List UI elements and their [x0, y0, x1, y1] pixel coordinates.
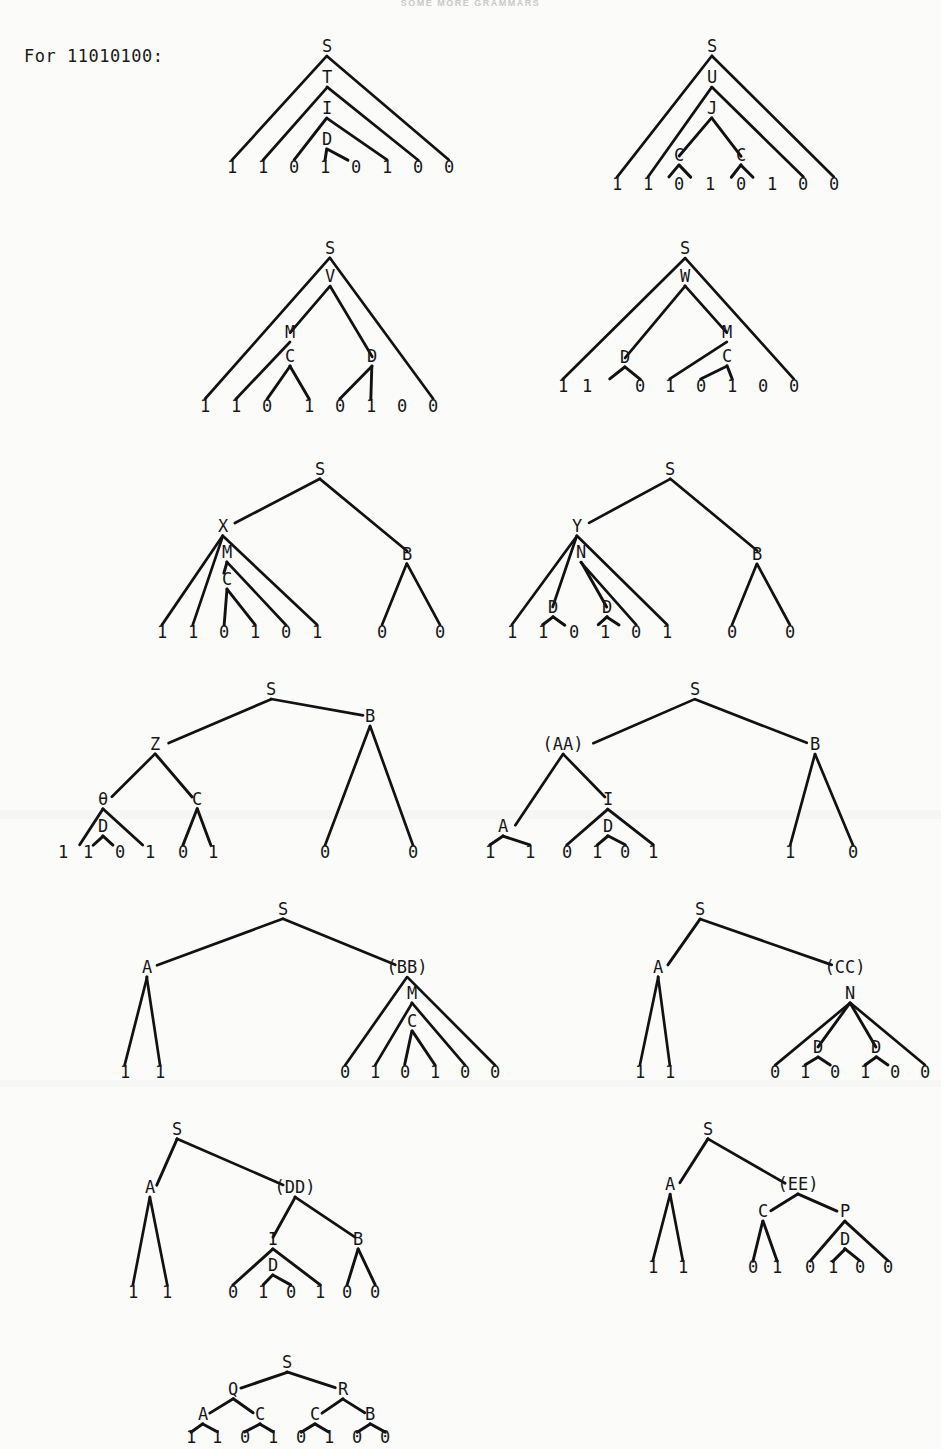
tree-node-label: N [845, 983, 855, 1003]
terminal-symbol: 1 [258, 1282, 268, 1302]
tree-node-label: X [218, 516, 229, 536]
tree-edge [763, 1221, 777, 1261]
terminal-symbol: 1 [507, 622, 517, 642]
tree-node-label: S [695, 899, 705, 919]
terminal-symbol: 0 [848, 842, 858, 862]
terminal-symbol: 0 [829, 174, 839, 194]
terminal-symbol: 0 [635, 376, 645, 396]
terminal-symbol: 0 [490, 1062, 500, 1082]
terminal-symbol: 0 [798, 174, 808, 194]
tree-edge [370, 726, 413, 845]
tree-edge [133, 1197, 150, 1285]
tree-edge [223, 536, 317, 625]
tree-edge [157, 1139, 177, 1185]
terminal-symbol: 0 [370, 1282, 380, 1302]
tree-edge [771, 1194, 798, 1211]
terminal-symbol: 0 [335, 396, 345, 416]
terminal-symbol: 1 [208, 842, 218, 862]
tree-edge [233, 1399, 253, 1413]
terminal-symbol: 1 [200, 396, 210, 416]
tree-node-label: S [266, 679, 276, 699]
terminal-symbol: 1 [120, 1062, 130, 1082]
terminal-symbol: 1 [600, 622, 610, 642]
tree-edge [625, 286, 685, 358]
tree-edge [371, 366, 372, 399]
terminal-symbol: 1 [767, 174, 777, 194]
tree-node-label: A [198, 1404, 208, 1424]
tree-edge [232, 56, 327, 160]
terminal-symbol: 0 [428, 396, 438, 416]
terminal-symbol: 1 [366, 396, 376, 416]
terminal-symbol: 0 [342, 1282, 352, 1302]
tree-edge [700, 919, 832, 965]
tree-node-label: D [871, 1037, 881, 1057]
tree-node-label: (EE) [778, 1174, 819, 1194]
tree-edge [235, 479, 320, 523]
tree-node-label: S [690, 679, 700, 699]
terminal-symbol: 0 [400, 1062, 410, 1082]
tree-node-label: C [192, 789, 202, 809]
terminal-symbol: 0 [674, 174, 684, 194]
parse-tree: SA(EE)CPD11010100 [605, 1105, 941, 1300]
tree-node-label: D [840, 1229, 850, 1249]
parse-tree: SUJCC11010100 [565, 38, 855, 193]
tree-edge [177, 1139, 283, 1185]
tree-edge [708, 1139, 785, 1183]
tree-edge [670, 479, 757, 551]
tree-edge [712, 56, 834, 177]
terminal-symbol: 1 [665, 1062, 675, 1082]
terminal-symbol: 1 [155, 1062, 165, 1082]
tree-node-label: (BB) [387, 957, 428, 977]
tree-edge [818, 1057, 830, 1065]
tree-edge [850, 1003, 925, 1065]
terminal-symbol: 0 [296, 1427, 306, 1447]
terminal-symbol: 0 [340, 1062, 350, 1082]
terminal-symbol: 1 [320, 157, 330, 177]
terminal-symbol: 0 [727, 622, 737, 642]
tree-node-label: S [680, 238, 690, 258]
terminal-symbol: 0 [620, 842, 630, 862]
terminal-symbol: 0 [736, 174, 746, 194]
terminal-symbol: 0 [377, 622, 387, 642]
tree-edge [347, 1249, 358, 1285]
parse-tree: SA(CC)NDD11010100 [600, 895, 940, 1090]
tree-edge [147, 977, 160, 1066]
terminal-symbol: 0 [696, 376, 706, 396]
document-page: SOME MORE GRAMMARS For 11010100: STID110… [0, 0, 941, 1449]
terminal-symbol: 0 [855, 1257, 865, 1277]
parse-tree: SXMCB11010100 [145, 455, 485, 650]
tree-edge [617, 56, 712, 177]
terminal-symbol: 0 [352, 1427, 362, 1447]
terminal-symbol: 1 [727, 376, 737, 396]
terminal-symbol: 1 [635, 1062, 645, 1082]
tree-node-label: B [353, 1229, 363, 1249]
terminal-symbol: 0 [115, 842, 125, 862]
terminal-symbol: 1 [188, 622, 198, 642]
tree-edge [412, 1031, 435, 1065]
figure-caption: For 11010100: [24, 46, 164, 66]
terminal-symbol: 1 [648, 1257, 658, 1277]
tree-node-label: M [407, 983, 417, 1003]
tree-node-label: (CC) [825, 957, 866, 977]
tree-node-label: D [813, 1037, 823, 1057]
tree-node-label: J [707, 98, 717, 118]
tree-node-label: D [602, 597, 612, 617]
terminal-symbol: 1 [430, 1062, 440, 1082]
terminal-symbol: 1 [382, 157, 392, 177]
tree-node-label: U [707, 67, 717, 87]
terminal-symbol: 1 [592, 842, 602, 862]
terminal-symbol: 1 [643, 174, 653, 194]
terminal-symbol: 0 [830, 1062, 840, 1082]
tree-node-label: A [145, 1177, 155, 1197]
tree-node-label: (DD) [275, 1177, 316, 1197]
terminal-symbol: 0 [281, 622, 291, 642]
terminal-symbol: 0 [435, 622, 445, 642]
parse-tree: SWDMC11010100 [535, 240, 835, 415]
tree-node-label: S [322, 36, 332, 56]
terminal-symbol: 1 [162, 1282, 172, 1302]
tree-edge [327, 149, 348, 160]
parse-tree: SYNDDB11010100 [495, 455, 835, 650]
tree-edge [732, 564, 757, 625]
tree-edge [815, 754, 853, 845]
terminal-symbol: 1 [582, 376, 592, 396]
